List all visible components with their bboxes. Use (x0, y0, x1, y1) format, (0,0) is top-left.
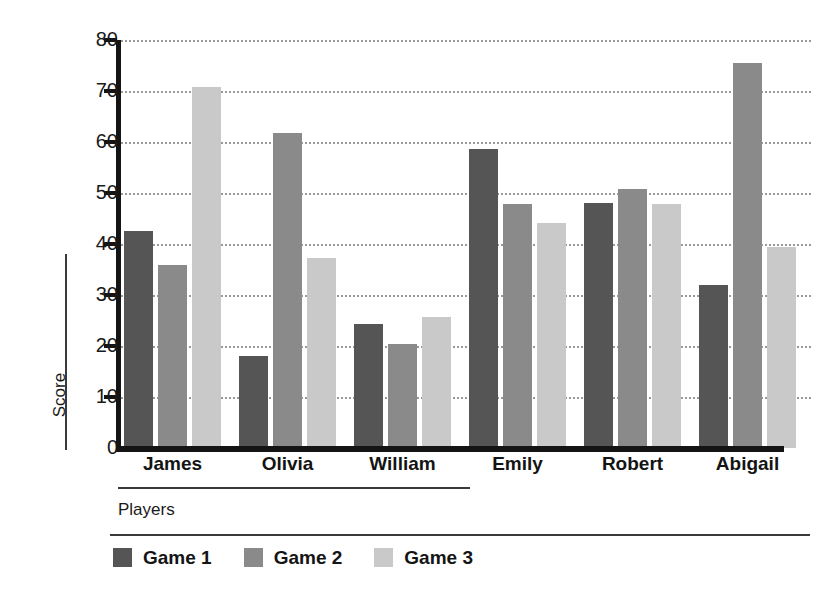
y-axis-tick-label-text: 40 (78, 233, 118, 253)
y-axis-tick-label-text: 10 (78, 386, 118, 406)
bar (158, 265, 187, 448)
x-axis-category-label: James (113, 453, 233, 475)
y-axis-tick-label-text: 70 (78, 80, 118, 100)
x-axis-title-rule (118, 487, 470, 489)
legend-swatch-icon (244, 548, 263, 567)
bar (699, 285, 728, 448)
y-axis-tick-label-text: 20 (78, 335, 118, 355)
y-axis-tick-label-text: 80 (78, 29, 118, 49)
legend-label: Game 3 (404, 548, 473, 567)
bar (388, 344, 417, 448)
legend-label: Game 2 (274, 548, 343, 567)
x-axis-category-label: Robert (573, 453, 693, 475)
bar (239, 356, 268, 448)
bar (422, 317, 451, 448)
bar-chart: 01020304050607080 JamesOliviaWilliamEmil… (0, 0, 837, 595)
y-axis-tick-label: 0 (58, 437, 118, 457)
legend-label: Game 1 (143, 548, 212, 567)
legend-item[interactable]: Game 2 (244, 548, 343, 567)
bar (273, 133, 302, 448)
legend-swatch-icon (113, 548, 132, 567)
x-axis-category-label: William (343, 453, 463, 475)
y-axis-tick-label: 70 (58, 80, 118, 100)
y-axis-title: Score (50, 355, 70, 435)
legend-rule (110, 534, 810, 536)
bar (537, 223, 566, 448)
y-axis-tick-label: 50 (58, 182, 118, 202)
bar (469, 149, 498, 448)
y-axis-tick-label-text: 50 (78, 182, 118, 202)
x-axis-category-label: Emily (458, 453, 578, 475)
y-axis-tick-label: 20 (58, 335, 118, 355)
x-axis-title: Players (118, 500, 175, 520)
legend: Game 1Game 2Game 3 (113, 546, 505, 568)
legend-swatch-icon (374, 548, 393, 567)
bar (767, 247, 796, 448)
bar (503, 204, 532, 448)
y-axis-tick-label-text: 30 (78, 284, 118, 304)
bar (584, 203, 613, 448)
bar (618, 189, 647, 448)
legend-item[interactable]: Game 3 (374, 548, 473, 567)
y-axis-tick-label: 40 (58, 233, 118, 253)
x-axis-category-label: Olivia (228, 453, 348, 475)
legend-item[interactable]: Game 1 (113, 548, 212, 567)
bar (307, 258, 336, 448)
bar (733, 63, 762, 448)
y-axis-tick-label: 80 (58, 29, 118, 49)
y-axis-tick-label: 60 (58, 131, 118, 151)
bar (124, 231, 153, 448)
y-axis-tick-label-text: 60 (78, 131, 118, 151)
x-axis-category-label: Abigail (688, 453, 808, 475)
bar (652, 204, 681, 448)
y-axis-tick-label: 30 (58, 284, 118, 304)
plot-area (121, 40, 811, 448)
bar (192, 87, 221, 448)
x-axis-line (116, 446, 784, 452)
bar (354, 324, 383, 448)
